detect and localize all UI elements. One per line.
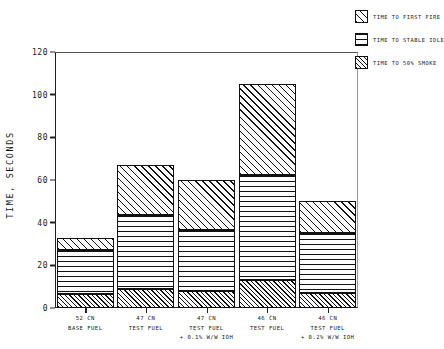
bar-segment	[178, 230, 235, 291]
legend-swatch-icon	[355, 33, 368, 46]
x-axis-tick-label-line: BASE FUEL	[68, 324, 102, 334]
legend-item-label: TIME TO FIRST FIRE	[373, 14, 440, 20]
bar-segment	[117, 289, 174, 308]
legend-item[interactable]: TIME TO 50% SMOKE	[355, 56, 440, 69]
x-axis-tick-label-line: TEST FUEL	[250, 324, 284, 334]
x-axis-tick-label-line: TEST FUEL	[129, 324, 163, 334]
bar-segment	[57, 238, 114, 251]
bar-segment	[117, 215, 174, 289]
x-axis-tick-label-line: 46 CN	[301, 314, 354, 324]
x-axis-tick-mark	[328, 308, 329, 313]
bar-segment	[239, 280, 296, 308]
x-axis-tick-label-line: + 0.1% W/W IOH	[180, 333, 233, 343]
y-axis-tick-label: 60	[37, 176, 48, 185]
y-axis-tick: 80	[37, 133, 55, 142]
bar-segment	[178, 180, 235, 230]
legend-item-label: TIME TO STABLE IDLE	[373, 37, 444, 43]
x-axis-tick-label-line: 47 CN	[129, 314, 163, 324]
y-axis-tick-label: 80	[37, 133, 48, 142]
x-axis-tick-label-line: + 0.2% W/W IOH	[301, 333, 354, 343]
x-axis-tick-label: 46 CNTEST FUEL+ 0.2% W/W IOH	[301, 314, 354, 343]
bar-segment	[178, 291, 235, 308]
x-axis-tick-label: 46 CNTEST FUEL	[250, 314, 284, 333]
bar-segment	[299, 201, 356, 233]
y-axis-tick: 40	[37, 218, 55, 227]
bar-segment	[299, 293, 356, 308]
x-axis-labels: 52 CNBASE FUEL47 CNTEST FUEL47 CNTEST FU…	[55, 314, 358, 348]
y-axis-tick: 20	[37, 261, 55, 270]
x-axis-tick-label-line: TEST FUEL	[301, 324, 354, 334]
x-axis-tick-mark	[207, 308, 208, 313]
bar-segment	[239, 84, 296, 175]
bar-segment	[57, 250, 114, 294]
legend-swatch-icon	[355, 56, 368, 69]
y-axis-tick-label: 0	[43, 304, 48, 313]
y-axis-ticks: 020406080100120	[0, 52, 55, 308]
y-axis-tick-label: 20	[37, 261, 48, 270]
x-axis-tick-label: 47 CNTEST FUEL	[129, 314, 163, 333]
legend: TIME TO FIRST FIRETIME TO STABLE IDLETIM…	[355, 10, 440, 79]
x-axis-tick-label-line: TEST FUEL	[180, 324, 233, 334]
bar-stack[interactable]	[239, 84, 296, 308]
x-axis-tick-label-line: 52 CN	[68, 314, 102, 324]
legend-item[interactable]: TIME TO FIRST FIRE	[355, 10, 440, 23]
bar-segment	[57, 294, 114, 308]
y-axis-tick-label: 120	[32, 48, 48, 57]
bar-segment	[299, 233, 356, 293]
legend-item-label: TIME TO 50% SMOKE	[373, 60, 437, 66]
y-axis-tick: 100	[32, 90, 55, 99]
x-axis-tick-mark	[85, 308, 86, 313]
y-axis-tick-label: 100	[32, 90, 48, 99]
x-axis-tick-mark	[267, 308, 268, 313]
x-axis-tick-label: 47 CNTEST FUEL+ 0.1% W/W IOH	[180, 314, 233, 343]
bar-segment	[239, 175, 296, 281]
x-axis-tick-label: 52 CNBASE FUEL	[68, 314, 102, 333]
bar-stack[interactable]	[299, 201, 356, 308]
bar-stack[interactable]	[57, 238, 114, 308]
bar-stack[interactable]	[178, 180, 235, 308]
y-axis-tick-label: 40	[37, 218, 48, 227]
legend-item[interactable]: TIME TO STABLE IDLE	[355, 33, 440, 46]
x-axis-tick-label-line: 46 CN	[250, 314, 284, 324]
y-axis-tick: 0	[43, 304, 55, 313]
legend-swatch-icon	[355, 10, 368, 23]
y-axis-tick: 120	[32, 48, 55, 57]
y-axis-tick: 60	[37, 176, 55, 185]
bar-segment	[117, 165, 174, 215]
bar-stack[interactable]	[117, 165, 174, 308]
x-axis-tick-label-line: 47 CN	[180, 314, 233, 324]
bar-group	[55, 52, 358, 308]
x-axis-tick-mark	[146, 308, 147, 313]
